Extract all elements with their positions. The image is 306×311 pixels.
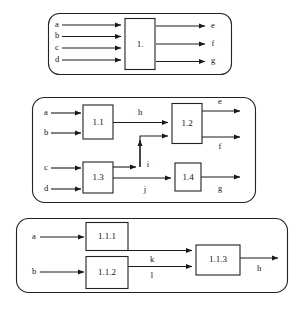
level-2-signal-label-i: i [147, 159, 150, 169]
level-2-group: a b c d 1.1 1.2 1.3 1.4 h i [33, 96, 256, 203]
level-2-input-label-a: a [44, 107, 48, 117]
level-2-signal-label-h: h [138, 107, 143, 117]
level-3-input-label-a: a [32, 231, 36, 241]
level-2-input-label-c: c [44, 162, 48, 172]
block-1-1-3-label: 1.1.3 [209, 254, 228, 264]
level-2-output-label-e: e [218, 96, 222, 106]
level-1-output-label-g: g [211, 55, 216, 65]
block-1-3-label: 1.3 [92, 172, 104, 182]
diagram-canvas: a b c d 1. e f g a b c [0, 0, 306, 311]
block-1-1-1-label: 1.1.1 [98, 231, 116, 241]
level-3-input-label-b: b [32, 266, 36, 276]
level-1-output-label-f: f [212, 38, 215, 48]
level-1-input-label-b: b [55, 30, 59, 40]
block-1-label: 1. [137, 39, 144, 49]
level-3-group: a b 1.1.1 1.1.2 1.1.3 k l h [17, 219, 288, 293]
level-1-input-label-d: d [55, 54, 60, 64]
level-3-signal-label-l: l [151, 270, 154, 280]
level-2-output-label-f: f [219, 141, 222, 151]
block-1-1-2-label: 1.1.2 [98, 267, 116, 277]
level-2-input-label-b: b [44, 127, 48, 137]
level-2-input-label-d: d [44, 183, 49, 193]
block-diagram-svg: a b c d 1. e f g a b c [0, 0, 306, 311]
block-1-2-label: 1.2 [181, 118, 192, 128]
level-3-output-label-h: h [257, 263, 262, 273]
level-1-group: a b c d 1. e f g [49, 14, 232, 75]
level-1-input-label-a: a [55, 19, 59, 29]
level-2-output-label-g: g [218, 183, 223, 193]
block-1-4-label: 1.4 [182, 172, 194, 182]
level-2-signal-arrow-i [140, 136, 168, 167]
block-1-1-label: 1.1 [92, 117, 103, 127]
level-1-output-label-e: e [211, 20, 215, 30]
level-1-input-label-c: c [55, 42, 59, 52]
level-2-signal-label-j: j [143, 184, 146, 194]
level-3-signal-label-k: k [150, 254, 155, 264]
